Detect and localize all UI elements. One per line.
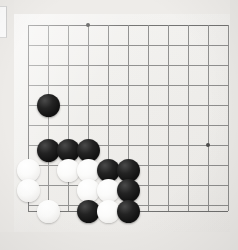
grid-line-vertical [148, 25, 149, 211]
grid-line-vertical [188, 25, 189, 211]
photo-margin-top [0, 0, 238, 14]
white-stone [17, 179, 40, 202]
star-point [206, 143, 210, 147]
page-edge-strip [0, 6, 7, 38]
white-stone [37, 200, 60, 223]
photo-margin-bottom [0, 232, 238, 250]
grid-line-vertical [68, 25, 69, 211]
grid-line-vertical [228, 25, 229, 211]
grid-line-vertical [48, 25, 49, 211]
black-stone [37, 94, 60, 117]
black-stone [117, 179, 140, 202]
grid-line-vertical [168, 25, 169, 211]
go-board-photo [0, 0, 238, 250]
grid-line-vertical [208, 25, 209, 211]
photo-margin-right [230, 0, 238, 250]
star-point [86, 23, 90, 27]
black-stone [117, 200, 140, 223]
